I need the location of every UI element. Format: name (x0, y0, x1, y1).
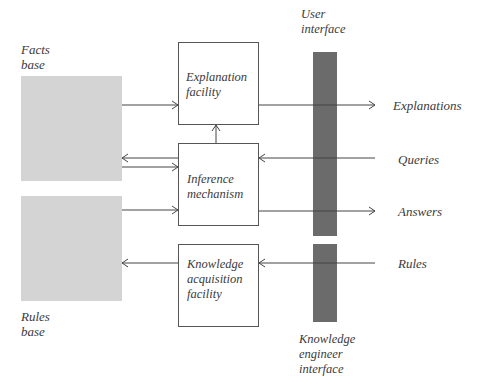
connector-arrows (0, 0, 483, 390)
